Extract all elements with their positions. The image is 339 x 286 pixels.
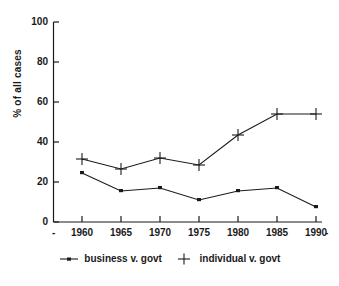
series-business-v-govt	[80, 171, 318, 208]
series-business-line	[82, 173, 316, 207]
series-individual-markers	[76, 108, 322, 175]
plus-marker-icon	[174, 253, 194, 265]
x-tick-label-1980: 1980	[221, 228, 255, 238]
series-individual-v-govt	[76, 108, 322, 175]
x-tick-label-1970: 1970	[143, 228, 177, 238]
x-tick-marks	[82, 216, 316, 222]
legend-item-business-v-govt: business v. govt	[59, 252, 162, 264]
x-tick-label-1975: 1975	[182, 228, 216, 238]
y-tick-marks	[54, 22, 60, 222]
legend-label-business-v-govt: business v. govt	[84, 253, 162, 264]
x-axis-right-end-tick: -	[325, 228, 328, 238]
legend-item-individual-v-govt: individual v. govt	[174, 252, 281, 264]
x-tick-label-1960: 1960	[65, 228, 99, 238]
line-chart: % of all cases 100 80 60 40 20 0	[0, 0, 339, 286]
plot-area	[0, 0, 339, 286]
x-tick-label-1965: 1965	[104, 228, 138, 238]
x-tick-label-1985: 1985	[260, 228, 294, 238]
x-axis-left-end-tick: -	[52, 228, 55, 238]
dot-line-marker-icon	[59, 253, 79, 265]
series-business-markers	[80, 171, 318, 208]
chart-legend: business v. govt individual v. govt	[0, 252, 339, 265]
legend-label-individual-v-govt: individual v. govt	[200, 253, 281, 264]
